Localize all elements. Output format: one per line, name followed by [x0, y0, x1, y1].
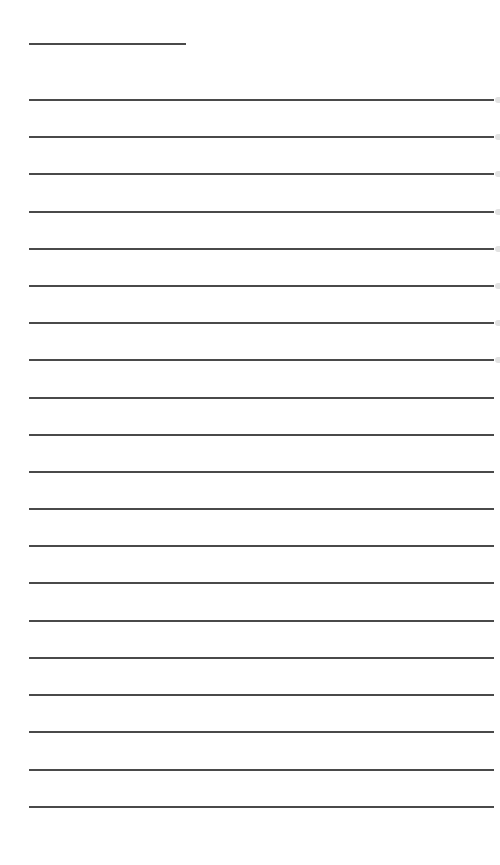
ruled-line — [29, 806, 494, 808]
page-edge-mark — [495, 171, 500, 177]
ruled-line — [29, 508, 494, 510]
ruled-line — [29, 173, 494, 175]
page-edge-mark — [495, 357, 500, 363]
page-edge-mark — [495, 134, 500, 140]
ruled-line — [29, 694, 494, 696]
ruled-line — [29, 657, 494, 659]
page-edge-mark — [495, 209, 500, 215]
ruled-line — [29, 620, 494, 622]
ruled-line — [29, 322, 494, 324]
page-edge-mark — [495, 283, 500, 289]
ruled-line — [29, 769, 494, 771]
ruled-line — [29, 434, 494, 436]
ruled-line — [29, 285, 494, 287]
ruled-line — [29, 248, 494, 250]
ruled-line — [29, 397, 494, 399]
ruled-line — [29, 136, 494, 138]
ruled-line — [29, 731, 494, 733]
ruled-line — [29, 471, 494, 473]
page-edge-mark — [495, 97, 500, 103]
ruled-line — [29, 545, 494, 547]
ruled-line — [29, 359, 494, 361]
ruled-line — [29, 211, 494, 213]
page-edge-mark — [495, 320, 500, 326]
page-edge-mark — [495, 246, 500, 252]
ruled-line — [29, 582, 494, 584]
header-name-line — [29, 43, 186, 45]
ruled-line — [29, 99, 494, 101]
